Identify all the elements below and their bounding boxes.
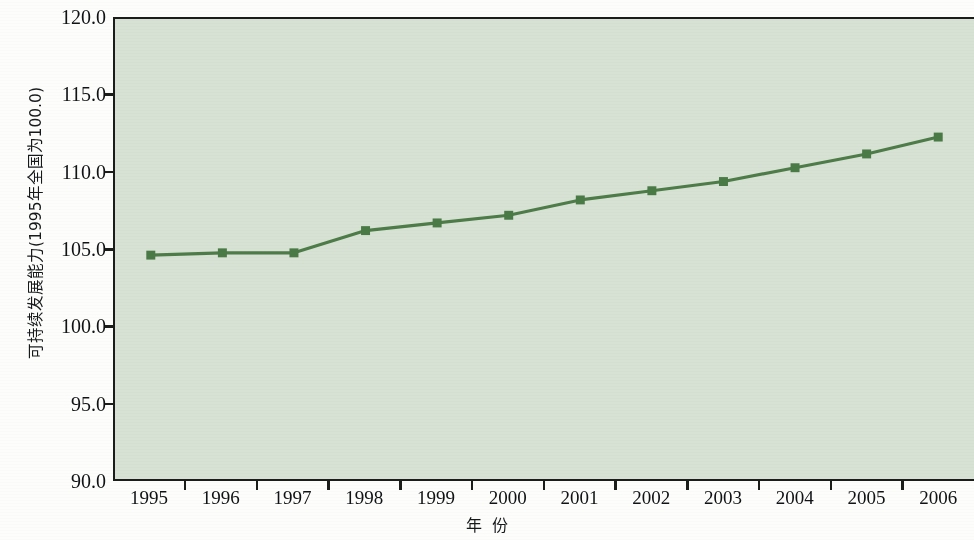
plot-area: 1995: 104.61996: 104.751997: 104.751998:… — [113, 17, 974, 481]
y-axis-tick-label: 95.0 — [36, 394, 106, 414]
data-point-marker: 1995: 104.6 — [146, 251, 155, 260]
data-point-marker: 1996: 104.75 — [218, 248, 227, 257]
series-line-sustainability — [151, 137, 938, 255]
data-point-marker: 2001: 108.2 — [576, 195, 585, 204]
y-axis-tick-label: 110.0 — [36, 162, 106, 182]
data-series-layer: 1995: 104.61996: 104.751997: 104.751998:… — [115, 19, 974, 479]
series-markers-sustainability: 1995: 104.61996: 104.751997: 104.751998:… — [146, 133, 942, 260]
data-point-marker: 2000: 107.2 — [504, 211, 513, 220]
data-point-marker: 2004: 110.3 — [791, 163, 800, 172]
x-axis-title: 年份 — [0, 512, 974, 536]
y-axis-tick-label: 115.0 — [36, 84, 106, 104]
x-axis-title-part: 份 — [492, 516, 508, 535]
y-axis-tick-labels: 120.0115.0110.0105.0100.095.090.0 — [30, 0, 106, 540]
data-point-marker: 1998: 106.2 — [361, 226, 370, 235]
data-point-marker: 2005: 111.2 — [862, 149, 871, 158]
y-axis-tick-label: 120.0 — [36, 7, 106, 27]
data-point-marker: 2006: 112.3 — [934, 133, 943, 142]
y-axis-tick-label: 100.0 — [36, 316, 106, 336]
data-point-marker: 1999: 106.7 — [433, 218, 442, 227]
y-axis-tick-label: 105.0 — [36, 239, 106, 259]
sustainability-index-line-chart: 可持续发展能力(1995年全国为100.0) 120.0115.0110.010… — [0, 0, 974, 540]
data-point-marker: 2003: 109.4 — [719, 177, 728, 186]
x-axis-title-year: 年 — [466, 516, 482, 535]
data-point-marker: 1997: 104.75 — [289, 248, 298, 257]
data-point-marker: 2002: 108.8 — [647, 186, 656, 195]
y-axis-tick-label: 90.0 — [36, 471, 106, 491]
x-axis-tick-label: 2006 — [893, 488, 974, 507]
